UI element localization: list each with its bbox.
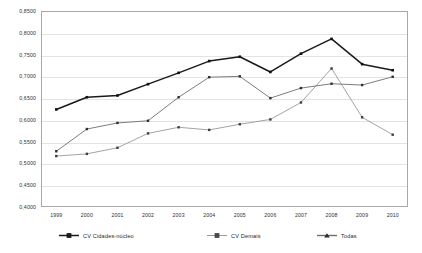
data-point-marker [55, 155, 57, 157]
data-point-marker [86, 153, 88, 155]
data-point-marker [392, 76, 394, 78]
x-axis-tick-label: 2006 [250, 212, 290, 218]
y-axis-tick-label: 0,8000 [0, 30, 36, 36]
data-point-marker [330, 38, 333, 41]
data-point-marker [269, 97, 271, 99]
series-line [56, 39, 392, 110]
x-axis-tick-label: 2001 [97, 212, 137, 218]
data-point-marker [177, 72, 180, 75]
data-point-marker [361, 63, 364, 66]
x-axis-tick-label: 2008 [312, 212, 352, 218]
data-point-marker [361, 84, 363, 86]
legend-label: CV Cidades-núcleo [83, 233, 134, 239]
data-point-marker [269, 118, 271, 120]
data-point-marker [300, 101, 302, 103]
y-axis-tick-label: 0,8500 [0, 8, 36, 14]
data-point-marker [116, 122, 118, 124]
x-axis-tick-label: 2000 [67, 212, 107, 218]
y-axis-tick-label: 0,7000 [0, 73, 36, 79]
x-axis-tick-label: 2009 [342, 212, 382, 218]
x-axis-tick-label: 2003 [159, 212, 199, 218]
legend-marker-icon [316, 232, 338, 239]
data-point-marker [330, 67, 332, 69]
data-point-marker [238, 55, 241, 58]
y-axis-tick-label: 0,4000 [0, 204, 36, 210]
series-line [56, 68, 392, 156]
data-point-marker [239, 75, 241, 77]
data-point-marker [177, 126, 179, 128]
chart-legend: CV Cidades-núcleo CV Demais Todas [0, 230, 422, 246]
data-point-marker [361, 116, 363, 118]
y-axis-tick-label: 0,6000 [0, 117, 36, 123]
data-point-marker [330, 83, 332, 85]
legend-item-cv-demais[interactable]: CV Demais [206, 232, 261, 239]
data-point-marker [147, 83, 150, 86]
data-point-marker [300, 52, 303, 55]
data-point-marker [208, 76, 210, 78]
legend-label: CV Demais [231, 233, 261, 239]
x-axis-tick-label: 1999 [36, 212, 76, 218]
x-axis-tick-label: 2004 [189, 212, 229, 218]
data-point-marker [392, 134, 394, 136]
data-point-marker [208, 60, 211, 63]
data-point-marker [177, 96, 179, 98]
x-axis-tick-label: 2007 [281, 212, 321, 218]
legend-marker-icon [58, 232, 80, 239]
data-point-marker [300, 87, 302, 89]
top-edge-artifact [96, 0, 246, 4]
x-axis-tick-label: 2005 [220, 212, 260, 218]
data-point-marker [269, 71, 272, 74]
data-point-marker [86, 128, 88, 130]
data-point-marker [55, 108, 58, 111]
data-point-marker [147, 120, 149, 122]
data-point-marker [147, 132, 149, 134]
data-point-marker [86, 96, 89, 99]
data-point-marker [239, 123, 241, 125]
legend-label: Todas [341, 233, 357, 239]
data-point-marker [116, 94, 119, 97]
y-axis-tick-label: 0,7500 [0, 52, 36, 58]
data-point-marker [116, 147, 118, 149]
y-axis-tick-label: 0,6500 [0, 95, 36, 101]
x-axis-tick-label: 2010 [373, 212, 413, 218]
data-point-marker [55, 150, 57, 152]
series-line [56, 76, 392, 151]
legend-item-cv-cidades-nucleo[interactable]: CV Cidades-núcleo [58, 232, 134, 239]
x-axis-tick-label: 2002 [128, 212, 168, 218]
y-axis-tick-label: 0,4500 [0, 182, 36, 188]
data-point-marker [208, 129, 210, 131]
data-point-marker [391, 69, 394, 72]
data-series-layer [41, 11, 408, 207]
legend-item-todas[interactable]: Todas [316, 232, 357, 239]
y-axis-tick-label: 0,5000 [0, 160, 36, 166]
line-chart: 0,85000,80000,75000,70000,65000,60000,55… [0, 0, 422, 253]
y-axis-tick-label: 0,5500 [0, 139, 36, 145]
legend-marker-icon [206, 232, 228, 239]
